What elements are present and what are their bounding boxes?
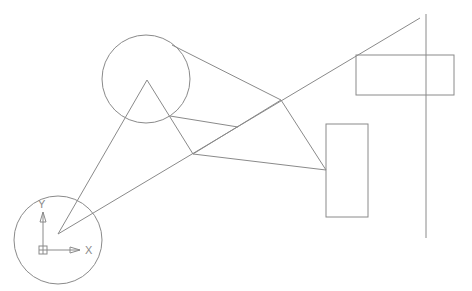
left-bottom-circle[interactable] (14, 196, 102, 284)
ucs-x-label: X (85, 244, 93, 256)
quad-edge-3[interactable] (193, 154, 326, 170)
middle-right-rectangle[interactable] (326, 124, 368, 217)
ucs-axis-icon: Y X (38, 198, 93, 256)
top-right-rectangle[interactable] (356, 55, 454, 95)
quad-edge-2[interactable] (281, 100, 326, 170)
drawing-geometry (14, 14, 454, 284)
triangle-right-edge[interactable] (147, 80, 193, 154)
triangle-left-edge[interactable] (58, 80, 147, 234)
quad-edge-1[interactable] (193, 100, 281, 154)
upper-circle[interactable] (102, 35, 190, 123)
drawing-canvas[interactable]: Y X (0, 0, 472, 291)
drawing-viewport[interactable]: Y X (0, 0, 472, 291)
ucs-y-label: Y (38, 198, 46, 210)
tangent-bottom-line[interactable] (170, 116, 238, 127)
